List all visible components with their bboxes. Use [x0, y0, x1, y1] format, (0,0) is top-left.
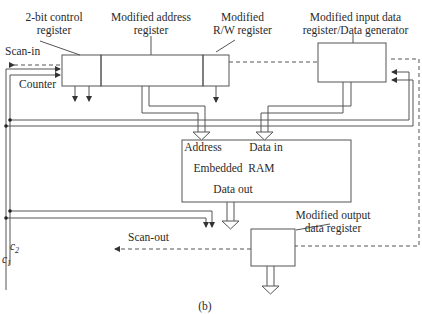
- rw-register-label-line1: Modified: [205, 11, 280, 24]
- address-register-label-line2: register: [105, 24, 197, 37]
- address-register-label-line1: Modified address: [105, 11, 197, 24]
- junction-dot: [4, 216, 8, 220]
- scan-out-label: Scan-out: [128, 231, 169, 244]
- junction-dot: [8, 118, 12, 122]
- rw-register-label-line2: R/W register: [205, 24, 280, 37]
- counter-label: Counter: [19, 78, 56, 91]
- junction-dot: [4, 124, 8, 128]
- c1-label-subscript: 1: [7, 259, 11, 268]
- junction-dot: [8, 209, 12, 213]
- diagram-canvas: [0, 0, 422, 314]
- c2-label-subscript: 2: [15, 246, 19, 255]
- input-register-label: Modified input data register/Data genera…: [298, 11, 413, 37]
- figure-caption: (b): [190, 300, 220, 313]
- ram-title: Embedded RAM: [186, 162, 282, 175]
- input-register-label-line1: Modified input data: [298, 11, 413, 24]
- control-register-label: 2-bit control register: [22, 11, 86, 37]
- address-register-label: Modified address register: [105, 11, 197, 37]
- scan-in-label: Scan-in: [5, 45, 40, 58]
- c1-label: c1: [2, 253, 11, 270]
- ram-data-in-port-label: Data in: [244, 141, 288, 154]
- control-register-label-line2: register: [22, 24, 86, 37]
- input-register-label-line2: register/Data generator: [298, 24, 413, 37]
- address-register-block: [101, 55, 203, 86]
- control-register-label-line1: 2-bit control: [22, 11, 86, 24]
- ram-address-port-label: Address: [183, 141, 223, 154]
- rw-register-label: Modified R/W register: [205, 11, 280, 37]
- c2-label: c2: [10, 240, 19, 257]
- rw-register-block: [203, 55, 229, 86]
- output-register-label: Modified output data register: [283, 209, 383, 235]
- ram-data-out-port-label: Data out: [208, 183, 258, 196]
- control-register-block: [62, 55, 101, 86]
- input-register-block: [318, 43, 386, 82]
- output-register-label-line2: data register: [283, 222, 383, 235]
- output-register-label-line1: Modified output: [283, 209, 383, 222]
